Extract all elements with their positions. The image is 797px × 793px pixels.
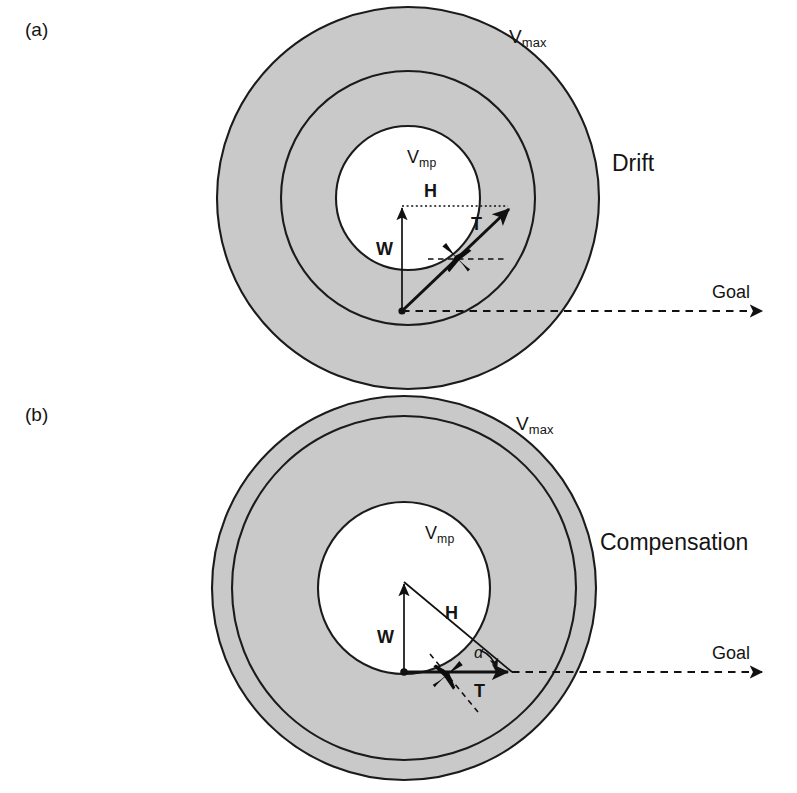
panel-b-vmax-base: V	[516, 413, 529, 434]
panel-a-vmax-subscript: max	[522, 35, 547, 50]
panel-b-goal-label: Goal	[712, 644, 750, 662]
panel-a-rings	[217, 7, 599, 389]
panel-a-origin-point	[398, 307, 405, 314]
panel-b-track-label: T	[474, 682, 485, 700]
panel-a-vmax-base: V	[509, 26, 522, 47]
figure-root: (a) Vmax Vmp H W T Drift Goal (b) Vmax V…	[0, 0, 797, 793]
panel-a-vmax-label: Vmax	[509, 27, 547, 50]
panel-b-vmax-subscript: max	[529, 422, 554, 437]
panel-b-vmp-base: V	[425, 523, 437, 543]
panel-b-vmp-label: Vmp	[425, 524, 454, 545]
panel-a-goal-label: Goal	[712, 283, 750, 301]
panel-a-heading-label: H	[424, 182, 437, 200]
panel-b-vmp-subscript: mp	[437, 532, 454, 546]
panel-a-vmp-base: V	[407, 147, 419, 167]
panel-a-label: (a)	[25, 20, 48, 39]
panel-b-origin-point	[400, 668, 408, 676]
panel-a-vmp-label: Vmp	[407, 148, 436, 169]
panel-b-vmax-label: Vmax	[516, 414, 554, 437]
panel-a-wind-label: W	[376, 240, 393, 258]
panel-b-wind-label: W	[377, 628, 394, 646]
panel-b-alpha-label: α	[474, 645, 483, 661]
diagram-canvas	[0, 0, 797, 793]
panel-a-vmp-subscript: mp	[419, 156, 436, 170]
panel-b-heading-label: H	[445, 604, 458, 622]
panel-b-mode-label: Compensation	[600, 531, 748, 554]
panel-a-mode-label: Drift	[612, 152, 654, 175]
panel-a-track-label: T	[471, 215, 482, 233]
panel-b-label: (b)	[25, 405, 48, 424]
